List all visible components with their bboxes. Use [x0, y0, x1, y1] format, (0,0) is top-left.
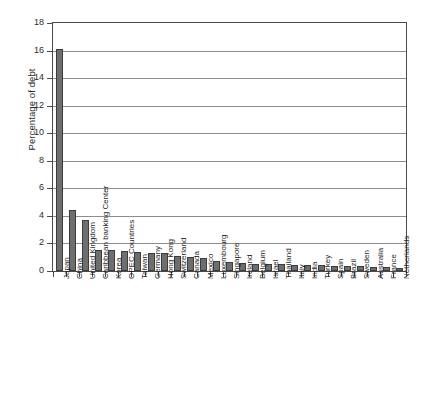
x-axis-label: Brazil	[350, 259, 358, 279]
bar-slot	[314, 23, 327, 271]
bar-slot	[262, 23, 275, 271]
y-tick-label-10: 10	[18, 128, 44, 137]
x-axis-label: Turkey	[324, 255, 332, 279]
x-axis-label: Canada	[193, 251, 201, 279]
bar-slot	[341, 23, 354, 271]
x-axis-label: Ireland	[246, 255, 254, 279]
bar-slot	[367, 23, 380, 271]
x-tick-mark	[53, 272, 54, 277]
bar-slot	[53, 23, 66, 271]
bar	[56, 49, 63, 271]
x-axis-label: India	[311, 262, 319, 279]
y-tick-label-2: 2	[18, 238, 44, 247]
x-axis-label: United Kingdom	[89, 222, 97, 279]
y-tick-label-6: 6	[18, 183, 44, 192]
x-axis-label: Switzerland	[180, 238, 188, 279]
x-axis-label: Mexico	[207, 254, 215, 279]
x-axis-label: Japan	[63, 257, 71, 279]
bar-slot	[328, 23, 341, 271]
x-axis-label: Sweden	[363, 250, 371, 279]
x-axis-label: Germany	[154, 246, 162, 279]
bar-chart: Percentage of debt 024681012141618 Japan…	[0, 0, 425, 402]
x-axis-label: Luxembourg	[220, 235, 228, 279]
bar-slot	[171, 23, 184, 271]
y-tick-label-4: 4	[18, 211, 44, 220]
bar-slot	[197, 23, 210, 271]
x-axis-label: Belgium	[259, 250, 267, 279]
x-axis-label: Spain	[337, 259, 345, 279]
bar-slot	[393, 23, 406, 271]
x-axis-label: Netherlands	[403, 236, 411, 279]
y-tick-label-18: 18	[18, 18, 44, 27]
bar-slot	[275, 23, 288, 271]
y-tick-label-0: 0	[18, 266, 44, 275]
bar-slot	[249, 23, 262, 271]
bar-slot	[184, 23, 197, 271]
bar-slot	[288, 23, 301, 271]
bar-slot	[236, 23, 249, 271]
x-axis-label: Australia	[377, 248, 385, 279]
x-axis-label: Korea	[115, 258, 123, 279]
x-axis-label: China	[76, 258, 84, 279]
bar-slot	[158, 23, 171, 271]
x-axis-label: OPEC Countries	[128, 220, 136, 279]
x-axis-label: Taiwan	[141, 254, 149, 279]
bar-slot	[145, 23, 158, 271]
x-axis-label: Hong Kong	[167, 239, 175, 279]
y-tick-label-16: 16	[18, 46, 44, 55]
x-axis-label: Italy	[298, 264, 306, 279]
x-axis-label: Caribbean banking Center	[102, 186, 110, 279]
x-axis-label: France	[390, 254, 398, 279]
bar-slot	[380, 23, 393, 271]
y-tick-label-14: 14	[18, 73, 44, 82]
bar-slot	[66, 23, 79, 271]
bar-slot	[354, 23, 367, 271]
x-axis-label: Singapore	[233, 243, 241, 279]
bar-slot	[301, 23, 314, 271]
x-axis-label: Thailand	[285, 248, 293, 279]
y-tick-label-12: 12	[18, 101, 44, 110]
y-tick-label-8: 8	[18, 156, 44, 165]
x-axis-label: Israel	[272, 259, 280, 279]
x-axis-labels: JapanChinaUnited KingdomCaribbean bankin…	[52, 279, 407, 399]
